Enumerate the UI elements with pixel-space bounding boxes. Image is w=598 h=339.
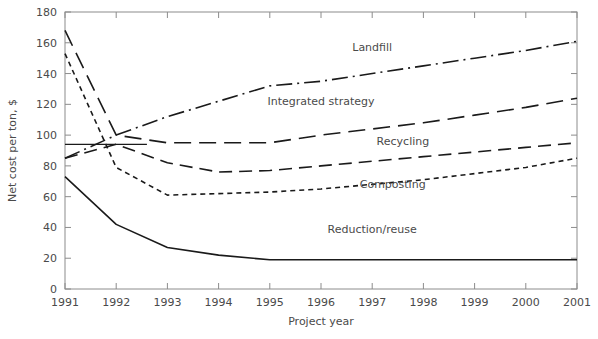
y-tick-label: 20 bbox=[43, 252, 57, 265]
x-tick-label: 1991 bbox=[51, 296, 79, 309]
series-line-composting bbox=[65, 54, 577, 196]
series-label-reduction-reuse: Reduction/reuse bbox=[328, 223, 417, 236]
y-tick-label: 160 bbox=[36, 37, 57, 50]
series-label-recycling: Recycling bbox=[377, 135, 430, 148]
y-tick-label: 0 bbox=[50, 283, 57, 296]
x-axis-title: Project year bbox=[288, 315, 354, 328]
x-tick-label: 1997 bbox=[358, 296, 386, 309]
x-tick-label: 2000 bbox=[512, 296, 540, 309]
x-tick-label: 1993 bbox=[153, 296, 181, 309]
series-label-landfill: Landfill bbox=[352, 41, 392, 54]
series-label-composting: Composting bbox=[360, 178, 426, 191]
x-tick-label: 2001 bbox=[563, 296, 591, 309]
y-tick-label: 40 bbox=[43, 221, 57, 234]
x-tick-label: 1994 bbox=[205, 296, 233, 309]
chart-canvas: 0204060801001201401601801991199219931994… bbox=[0, 0, 598, 339]
y-tick-label: 120 bbox=[36, 98, 57, 111]
y-tick-label: 60 bbox=[43, 191, 57, 204]
y-tick-label: 80 bbox=[43, 160, 57, 173]
line-chart: 0204060801001201401601801991199219931994… bbox=[0, 0, 598, 339]
y-tick-label: 140 bbox=[36, 68, 57, 81]
x-tick-label: 1999 bbox=[461, 296, 489, 309]
series-line-integrated-strategy bbox=[65, 30, 577, 142]
chart-page: 0204060801001201401601801991199219931994… bbox=[0, 0, 598, 339]
x-tick-label: 1996 bbox=[307, 296, 335, 309]
y-tick-label: 180 bbox=[36, 6, 57, 19]
y-axis-title: Net cost per ton, $ bbox=[6, 99, 19, 202]
series-label-integrated-strategy: Integrated strategy bbox=[268, 95, 375, 108]
y-tick-label: 100 bbox=[36, 129, 57, 142]
series-line-recycling bbox=[65, 143, 577, 172]
x-tick-label: 1992 bbox=[102, 296, 130, 309]
x-tick-label: 1998 bbox=[409, 296, 437, 309]
x-tick-label: 1995 bbox=[256, 296, 284, 309]
